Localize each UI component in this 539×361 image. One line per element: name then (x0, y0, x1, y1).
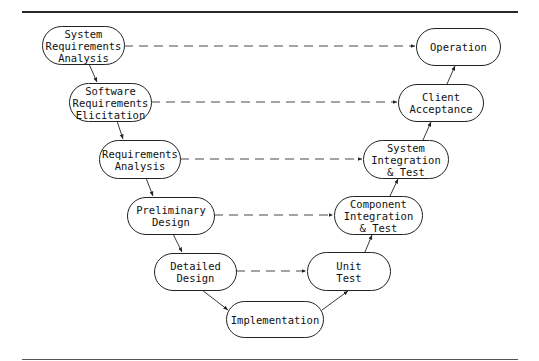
node-software-requirements-elicitation: Software Requirements Elicitation (69, 83, 152, 122)
edge-impl-ut (322, 291, 348, 310)
edge-dd-impl (202, 290, 228, 310)
edge-sra-sre (89, 64, 97, 82)
node-system-requirements-analysis: System Requirements Analysis (42, 26, 125, 65)
edge-ut-cit (365, 235, 372, 252)
node-preliminary-design: Preliminary Design (127, 197, 215, 235)
edge-pd-dd (173, 234, 182, 252)
node-operation: Operation (416, 28, 501, 66)
node-detailed-design: Detailed Design (154, 253, 237, 291)
node-component-integration-test: Component Integration & Test (334, 196, 423, 235)
edge-cit-sit (390, 179, 398, 196)
node-unit-test: Unit Test (307, 252, 391, 291)
node-client-acceptance: Client Acceptance (398, 84, 484, 122)
edge-ca-op (447, 66, 455, 84)
edge-sit-ca (423, 122, 431, 140)
node-system-integration-test: System Integration & Test (363, 140, 449, 179)
node-requirements-analysis: Requirements Analysis (99, 140, 181, 179)
node-implementation: Implementation (226, 301, 324, 338)
edge-sre-ra (117, 121, 123, 139)
edge-ra-pd (146, 178, 153, 196)
